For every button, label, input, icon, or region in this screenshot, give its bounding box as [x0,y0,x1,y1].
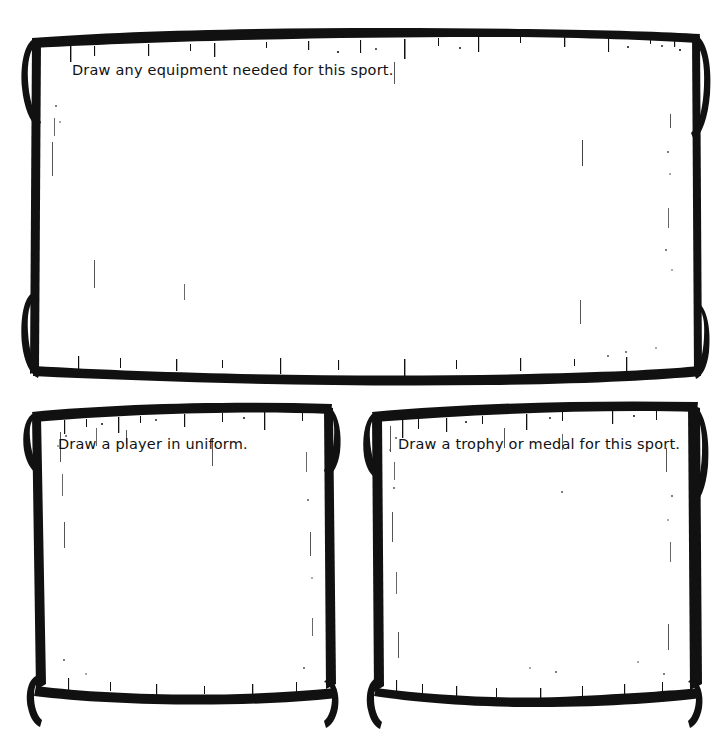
prompt-equipment: Draw any equipment needed for this sport… [72,62,394,79]
prompt-player: Draw a player in uniform. [58,436,248,453]
prompt-trophy: Draw a trophy or medal for this sport. [398,436,680,453]
worksheet-page: Draw any equipment needed for this sport… [0,0,722,746]
drawing-area-equipment[interactable] [48,112,688,392]
